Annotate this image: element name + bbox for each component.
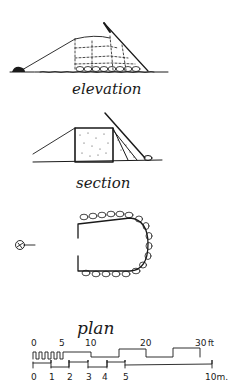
- elevation-drawing: [10, 23, 168, 73]
- plan-label: plan: [77, 318, 114, 338]
- scale-bar-meters: [33, 360, 212, 368]
- section-label: section: [76, 174, 131, 192]
- meter-tick-labels: 0 1 2 3 4 5 10m.: [31, 372, 228, 382]
- rock-icon: [12, 67, 25, 72]
- scale-bar-feet: [33, 348, 200, 359]
- m-end-label: 10m.: [205, 372, 228, 382]
- m-tick-1: 1: [49, 372, 55, 382]
- m-tick-2: 2: [67, 372, 73, 382]
- m-tick-3: 3: [86, 372, 92, 382]
- ft-unit: ft: [208, 339, 214, 348]
- elevation-label: elevation: [72, 80, 142, 98]
- ft-tick-10: 10: [85, 338, 97, 348]
- sketch-canvas: elevation section: [0, 0, 246, 386]
- m-tick-4: 4: [102, 372, 108, 382]
- plan-drawing: [16, 211, 153, 277]
- ft-tick-0: 0: [31, 338, 37, 348]
- m-tick-0: 0: [31, 372, 37, 382]
- section-drawing: [33, 113, 162, 162]
- m-tick-5: 5: [123, 372, 129, 382]
- feet-tick-labels: 0 5 10 20 30 ft: [31, 338, 214, 348]
- ft-tick-5: 5: [59, 338, 65, 348]
- ft-tick-20: 20: [140, 338, 152, 348]
- north-arrow-icon: [16, 241, 36, 250]
- stones-row: [76, 67, 140, 72]
- ft-tick-30: 30: [195, 338, 207, 348]
